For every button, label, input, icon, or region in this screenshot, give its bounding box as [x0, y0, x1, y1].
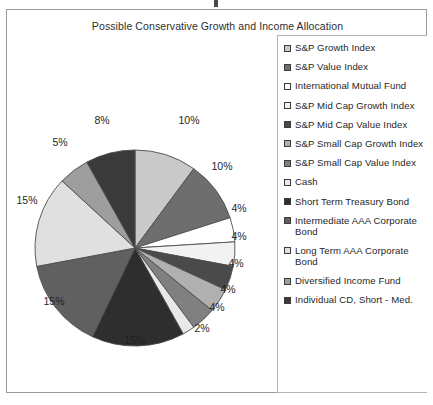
pie-percent-label: 15% [124, 334, 145, 346]
legend-item-label: Intermediate AAA Corporate Bond [295, 215, 425, 237]
legend-swatch-icon [284, 297, 291, 304]
pie-percent-label: 15% [43, 295, 64, 307]
legend-item: S&P Mid Cap Value Index [284, 119, 425, 130]
legend-item: S&P Mid Cap Growth Index [284, 100, 425, 111]
pie-percent-label: 4% [220, 283, 235, 295]
pie-percent-label: 4% [231, 230, 246, 242]
pie-percent-label: 5% [52, 136, 67, 148]
legend-item-label: S&P Small Cap Value Index [295, 157, 416, 168]
legend-item-label: S&P Value Index [295, 61, 368, 72]
pie-percent-label: 15% [16, 194, 37, 206]
legend-item: Short Term Treasury Bond [284, 196, 425, 207]
legend-swatch-icon [284, 247, 291, 254]
legend-swatch-icon [284, 179, 291, 186]
legend-item-label: Short Term Treasury Bond [295, 196, 409, 207]
legend-item-label: S&P Mid Cap Value Index [295, 119, 407, 130]
legend-item: Individual CD, Short - Med. [284, 294, 425, 305]
pie-percent-label: 4% [231, 202, 246, 214]
legend-swatch-icon [284, 64, 291, 71]
pie-percent-label: 2% [194, 322, 209, 334]
legend-item: International Mutual Fund [284, 80, 425, 91]
chart-frame: Possible Conservative Growth and Income … [6, 9, 427, 393]
chart-legend: S&P Growth IndexS&P Value IndexInternati… [277, 35, 427, 393]
pie-percent-label: 4% [228, 257, 243, 269]
legend-swatch-icon [284, 198, 291, 205]
legend-swatch-icon [284, 217, 291, 224]
pie-chart-screenshot: Possible Conservative Growth and Income … [0, 0, 433, 405]
legend-item-label: S&P Mid Cap Growth Index [295, 100, 415, 111]
pie-slices [35, 150, 235, 346]
legend-item: Cash [284, 176, 425, 187]
legend-item-label: S&P Small Cap Growth Index [295, 138, 423, 149]
legend-swatch-icon [284, 102, 291, 109]
legend-list: S&P Growth IndexS&P Value IndexInternati… [284, 42, 425, 305]
legend-swatch-icon [284, 160, 291, 167]
legend-item-label: S&P Growth Index [295, 42, 375, 53]
legend-swatch-icon [284, 45, 291, 52]
legend-swatch-icon [284, 121, 291, 128]
legend-item: Long Term AAA Corporate Bond [284, 245, 425, 267]
top-edge-artifact [214, 0, 218, 7]
pie-percent-label: 4% [209, 301, 224, 313]
legend-item: S&P Small Cap Growth Index [284, 138, 425, 149]
legend-item-label: Long Term AAA Corporate Bond [295, 245, 425, 267]
pie-percent-label: 10% [178, 114, 199, 126]
legend-item: Diversified Income Fund [284, 275, 425, 286]
pie-percent-label: 10% [211, 160, 232, 172]
legend-swatch-icon [284, 140, 291, 147]
legend-swatch-icon [284, 83, 291, 90]
legend-item: S&P Small Cap Value Index [284, 157, 425, 168]
legend-item: S&P Growth Index [284, 42, 425, 53]
legend-item-label: Individual CD, Short - Med. [295, 294, 413, 305]
chart-title: Possible Conservative Growth and Income … [7, 20, 428, 32]
legend-item: S&P Value Index [284, 61, 425, 72]
plot-area: 10%10%4%4%4%4%4%2%15%15%15%5%8% [7, 32, 273, 394]
legend-item: Intermediate AAA Corporate Bond [284, 215, 425, 237]
legend-item-label: Cash [295, 176, 318, 187]
pie-percent-label: 8% [94, 114, 109, 126]
legend-swatch-icon [284, 278, 291, 285]
legend-item-label: International Mutual Fund [295, 80, 406, 91]
legend-item-label: Diversified Income Fund [295, 275, 401, 286]
